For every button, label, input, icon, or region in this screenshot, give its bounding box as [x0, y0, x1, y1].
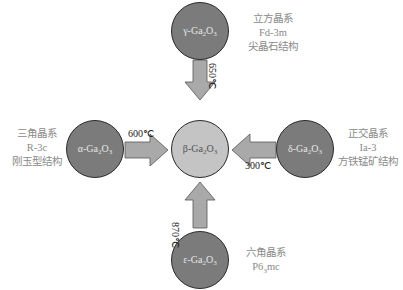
phase-epsilon-info: 六角晶系 P63mc: [236, 246, 296, 278]
temp-alpha: 600℃: [128, 128, 154, 139]
crystal-system: 正交晶系: [333, 127, 403, 141]
phase-delta-info: 正交晶系 Ia-3 方铁锰矿结构: [333, 127, 403, 169]
phase-alpha-formula: α-Ga2O3: [78, 143, 112, 156]
phase-beta-circle: β-Ga2O3: [171, 120, 229, 178]
space-group: Ia-3: [333, 141, 403, 155]
crystal-system: 三角晶系: [6, 127, 68, 141]
phase-delta-formula: δ-Ga2O3: [288, 143, 322, 156]
structure-type: 刚玉型结构: [6, 155, 68, 169]
phase-gamma-info: 立方晶系 Fd-3m 尖晶石结构: [237, 12, 309, 54]
phase-gamma-formula: γ-Ga2O3: [183, 25, 217, 38]
arrow-epsilon-to-beta: [185, 182, 215, 228]
space-group: R-3c: [6, 141, 68, 155]
phase-alpha-info: 三角晶系 R-3c 刚玉型结构: [6, 127, 68, 169]
structure-type: 方铁锰矿结构: [333, 155, 403, 169]
phase-beta-formula: β-Ga2O3: [183, 143, 217, 156]
phase-delta-circle: δ-Ga2O3: [276, 120, 334, 178]
crystal-system: 立方晶系: [237, 12, 309, 26]
temp-delta: 300℃: [245, 160, 271, 171]
phase-epsilon-formula: ε-Ga2O3: [183, 254, 216, 267]
temp-epsilon-label: 870℃: [170, 222, 181, 248]
crystal-system: 六角晶系: [236, 246, 296, 260]
space-group: P63mc: [236, 260, 296, 278]
space-group: Fd-3m: [237, 26, 309, 40]
structure-type: 尖晶石结构: [237, 40, 309, 54]
phase-gamma-circle: γ-Ga2O3: [171, 2, 229, 60]
temp-gamma: 650℃: [207, 63, 218, 89]
phase-alpha-circle: α-Ga2O3: [66, 120, 124, 178]
